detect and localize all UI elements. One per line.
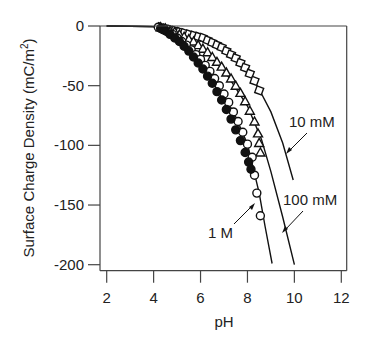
x-tick-label: 12 <box>333 289 350 306</box>
data-point-100mm <box>256 148 265 156</box>
data-point-filled-1m <box>213 88 221 96</box>
data-point-filled-1m <box>227 115 235 123</box>
y-axis-label-main: Surface Charge Density (mC/m <box>20 49 37 257</box>
annotation-arrow-10mM <box>289 133 307 151</box>
y-tick-label: -50 <box>62 77 84 94</box>
x-tick-label: 8 <box>243 289 251 306</box>
annotation-1M: 1 M <box>208 224 233 241</box>
data-point-filled-1m <box>222 106 230 114</box>
data-point-10mm <box>255 86 264 95</box>
y-tick-label: -200 <box>54 256 84 273</box>
annotation-arrowhead-1M <box>249 203 255 210</box>
annotation-100mM: 100 mM <box>283 191 337 208</box>
y-tick-label: -150 <box>54 196 84 213</box>
data-point-100mm <box>250 117 259 125</box>
data-point-100mm <box>245 106 254 114</box>
data-point-filled-1m <box>241 149 249 157</box>
data-point-1m <box>256 212 264 220</box>
data-point-filled-1m <box>218 96 226 104</box>
x-tick-label: 2 <box>103 289 111 306</box>
data-point-filled-1m <box>232 126 240 134</box>
data-point-filled-1m <box>236 137 244 145</box>
annotation-arrow-1M <box>234 206 252 224</box>
data-point-100mm <box>254 129 263 137</box>
data-point-1m <box>253 189 261 197</box>
data-point-filled-1m <box>199 65 207 73</box>
y-tick-label: 0 <box>76 17 84 34</box>
data-point-filled-1m <box>204 72 212 80</box>
annotation-arrow-100mM <box>285 211 303 230</box>
annotation-10mM: 10 mM <box>289 113 335 130</box>
x-axis-label: pH <box>214 313 233 330</box>
x-tick-label: 6 <box>196 289 204 306</box>
y-tick-label: -100 <box>54 136 84 153</box>
data-point-filled-1m <box>208 79 216 87</box>
y-axis-label-end: ) <box>20 39 37 44</box>
x-tick-label: 4 <box>149 289 157 306</box>
data-point-10mm <box>250 76 259 85</box>
x-tick-label: 10 <box>286 289 303 306</box>
plot-area <box>107 23 295 265</box>
y-axis-label: Surface Charge Density (mC/m2) <box>19 39 37 258</box>
annotation-arrowhead-100mM <box>282 226 288 233</box>
annotation-arrowhead-10mM <box>286 147 292 154</box>
chart: 0-50-100-150-20024681012 Surface Charge … <box>0 0 365 341</box>
data-point-filled-1m <box>247 165 255 173</box>
